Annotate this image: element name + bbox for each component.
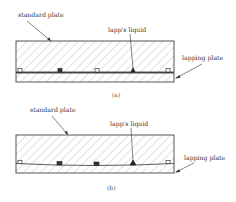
lapping-diagram: standard plate lapp's liquid lapping pla… — [0, 0, 236, 202]
arrowhead-standard-plate-a — [47, 37, 51, 41]
label-standard-plate-b: standard plate — [30, 106, 76, 114]
label-standard-plate-a: standard plate — [18, 11, 64, 19]
arrowhead-lapping-plate-b — [175, 169, 180, 172]
label-lapping-plate-a: lapping plate — [182, 54, 224, 62]
panel-b: standard plate lapp's liquid lapping pla… — [16, 106, 226, 191]
standard-plate-b — [16, 135, 174, 173]
caption-b: (b) — [107, 184, 116, 191]
lapping-plate-a — [16, 73, 174, 82]
label-lapps-liquid-b: lapp's liquid — [110, 120, 148, 128]
caption-a: (a) — [112, 91, 120, 98]
standard-plate-a — [16, 41, 174, 72]
label-lapps-liquid-a: lapp's liquid — [108, 26, 146, 34]
leader-standard-plate-a — [27, 21, 51, 41]
label-lapping-plate-b: lapping plate — [184, 154, 226, 162]
arrowhead-lapping-plate-a — [175, 75, 181, 79]
leader-lapping-plate-a — [176, 64, 202, 78]
panel-a: standard plate lapp's liquid lapping pla… — [16, 11, 224, 98]
